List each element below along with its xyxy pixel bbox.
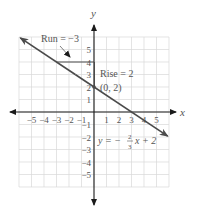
y-tick-label: −2 xyxy=(81,133,91,143)
coordinate-plane: −5−4−3−2−112345−5−4−3−2−112345 x y Run =… xyxy=(0,0,203,212)
x-tick-label: 1 xyxy=(104,115,109,125)
x-tick-label: 5 xyxy=(154,115,159,125)
equation-label-right: x + 2 xyxy=(134,135,156,146)
run-pointer-arrow xyxy=(60,46,70,57)
y-tick-label: −4 xyxy=(81,158,91,168)
rise-label: Rise = 2 xyxy=(100,68,133,79)
y-tick-label: −5 xyxy=(81,170,91,180)
equation-label-left: y = − xyxy=(97,135,121,146)
x-tick-label: −5 xyxy=(27,115,37,125)
graph-figure: −5−4−3−2−112345−5−4−3−2−112345 x y Run =… xyxy=(0,0,203,212)
y-axis-label: y xyxy=(90,7,96,19)
y-tick-label: −3 xyxy=(81,145,91,155)
x-tick-label: 3 xyxy=(129,115,134,125)
equation-denominator: 3 xyxy=(128,143,132,151)
x-tick-label: 2 xyxy=(117,115,122,125)
intercept-point xyxy=(92,85,96,89)
equation-numerator: 2 xyxy=(128,133,132,141)
y-tick-label: 1 xyxy=(87,95,92,105)
point-label: (0, 2) xyxy=(100,82,122,94)
y-tick-label: 3 xyxy=(87,70,92,80)
run-label: Run = −3 xyxy=(41,33,79,44)
x-axis-label: x xyxy=(179,106,185,118)
x-tick-label: −4 xyxy=(39,115,49,125)
annotations: x y Run = −3 Rise = 2 (0, 2) y = − 2 3 x… xyxy=(41,7,185,151)
y-tick-label: −1 xyxy=(81,120,91,130)
y-tick-label: 5 xyxy=(87,45,92,55)
x-tick-label: −2 xyxy=(64,115,74,125)
x-tick-label: −3 xyxy=(52,115,62,125)
